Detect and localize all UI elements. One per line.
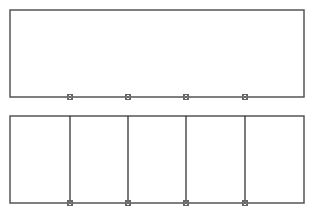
bottom-panel-frame <box>10 116 304 203</box>
bottom-panel <box>10 116 304 206</box>
diagram-canvas <box>0 0 312 223</box>
top-panel <box>10 10 304 100</box>
top-panel-frame <box>10 10 304 97</box>
